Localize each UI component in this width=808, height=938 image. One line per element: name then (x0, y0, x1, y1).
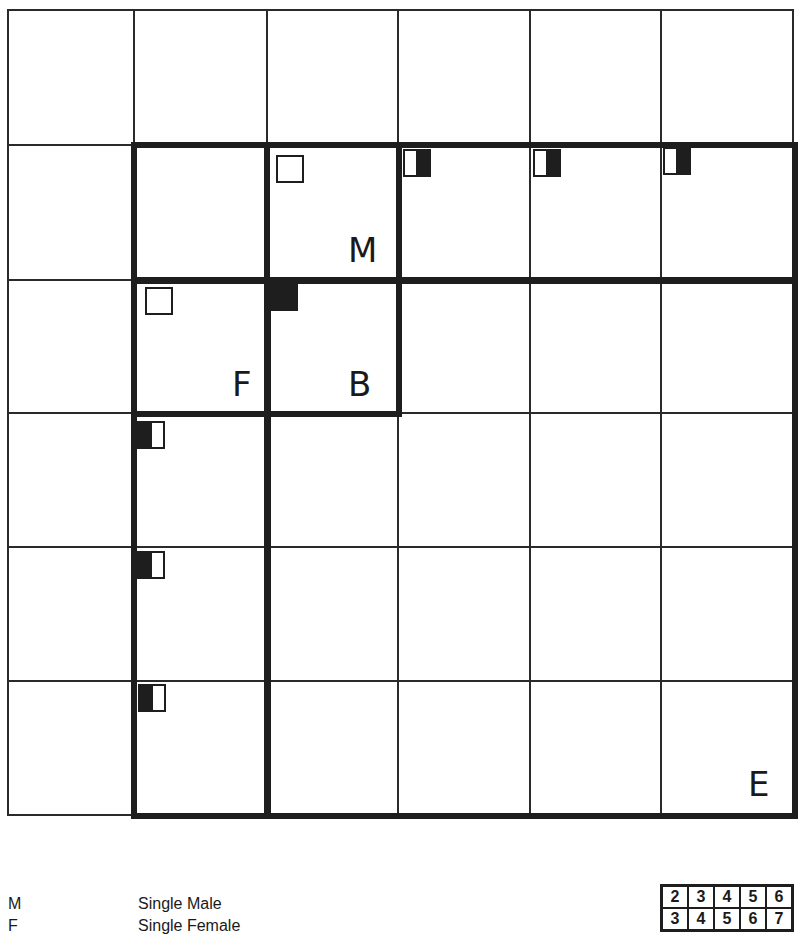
number-mini-table: 2 3 4 5 6 3 4 5 6 7 (660, 884, 794, 932)
half-filled-marker-r1c5 (663, 147, 691, 175)
half-filled-marker-r3c1 (137, 421, 165, 449)
mini-table-row: 3 4 5 6 7 (662, 908, 793, 931)
grid-line-v6 (792, 10, 794, 146)
mini-table-cell: 4 (688, 908, 714, 931)
region-label-b: B (348, 367, 371, 401)
region-label-m: M (348, 233, 377, 267)
mini-table-cell: 6 (740, 908, 766, 931)
region-label-f: F (232, 367, 252, 401)
mini-table-row: 2 3 4 5 6 (662, 886, 793, 909)
top-row-region-outline (131, 142, 798, 284)
grid-line-h0 (7, 9, 794, 11)
empty-square-marker-m (276, 155, 304, 183)
cell-grid-diagram: M F B E (0, 0, 808, 830)
empty-square-marker-f (145, 287, 173, 315)
mini-table-cell: 4 (714, 886, 740, 909)
filled-square-marker-b (270, 283, 298, 311)
legend-key: F (8, 917, 18, 935)
mini-table-cell: 6 (766, 886, 793, 909)
legend-text: Single Male (138, 895, 222, 913)
mini-table-cell: 3 (662, 908, 689, 931)
mini-table-cell: 2 (662, 886, 689, 909)
half-filled-marker-r4c1 (137, 551, 165, 579)
half-filled-marker-r5c1 (138, 684, 166, 712)
mini-table-cell: 5 (714, 908, 740, 931)
half-filled-marker-r1c4 (533, 149, 561, 177)
region-label-e: E (748, 767, 769, 801)
mini-table-cell: 3 (688, 886, 714, 909)
legend-key: M (8, 895, 21, 913)
legend-text: Single Female (138, 917, 240, 935)
mini-table-cell: 7 (766, 908, 793, 931)
half-filled-marker-r1c3 (403, 149, 431, 177)
mini-table-cell: 5 (740, 886, 766, 909)
